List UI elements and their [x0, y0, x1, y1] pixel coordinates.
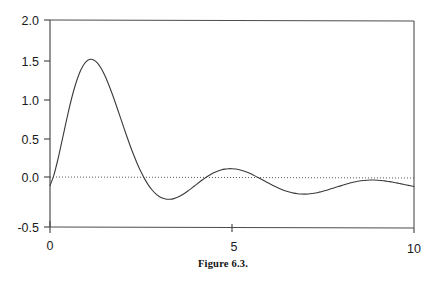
y-tick-label-0: -0.5: [17, 221, 39, 235]
y-axis-tick-labels: 2.0 1.5 1.0 0.5 0.0 -0.5: [17, 14, 39, 235]
chart-plot-area: 2.0 1.5 1.0 0.5 0.0 -0.5 0 5 10: [0, 0, 446, 283]
top-frame-line: [50, 20, 414, 21]
y-tick-label-1: 0.0: [22, 171, 39, 185]
y-tick-label-2: 0.5: [22, 133, 39, 147]
x-tick-label-2: 10: [407, 242, 421, 256]
zero-reference-line: [50, 177, 414, 178]
axis-frame: [50, 20, 414, 228]
y-tick-label-5: 2.0: [22, 14, 39, 28]
figure-container: 2.0 1.5 1.0 0.5 0.0 -0.5 0 5 10 Figure 6…: [0, 0, 446, 283]
x-tick-label-0: 0: [47, 239, 54, 253]
x-axis-tick-labels: 0 5 10: [47, 239, 421, 256]
y-axis-ticks: [44, 20, 50, 227]
y-tick-label-3: 1.0: [22, 94, 39, 108]
figure-caption: Figure 6.3.: [0, 258, 446, 269]
x-tick-label-1: 5: [231, 240, 238, 254]
y-tick-label-4: 1.5: [22, 55, 39, 69]
